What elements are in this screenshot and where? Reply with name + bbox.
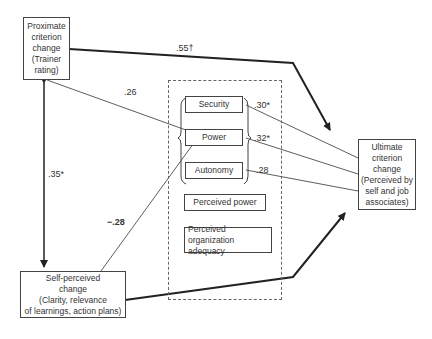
coef-security-ultimate: .30* [254, 100, 270, 110]
node-autonomy: Autonomy [185, 162, 243, 179]
coef-proximate-ultimate: .55† [176, 43, 194, 53]
node-power: Power [185, 129, 243, 146]
mediator-group-dashed-region [168, 80, 282, 300]
node-ultimate-criterion-change: Ultimate criterion change (Perceived by … [358, 139, 416, 210]
node-self-perceived-change: Self-perceived change (Clarity, relevanc… [20, 271, 126, 318]
node-security: Security [185, 96, 243, 113]
coef-self-power: −.28 [107, 217, 125, 227]
node-perceived-power: Perceived power [184, 194, 266, 211]
node-proximate-criterion-change: Proximate criterion change (Trainer rati… [23, 17, 70, 80]
coef-power-ultimate: .32* [254, 133, 270, 143]
coef-autonomy-ultimate: .28 [256, 165, 269, 175]
coef-proximate-self: .35* [48, 169, 64, 179]
node-perceived-organization-adequacy: Perceived organization adequacy [184, 227, 272, 253]
coef-proximate-power: .26 [124, 87, 137, 97]
